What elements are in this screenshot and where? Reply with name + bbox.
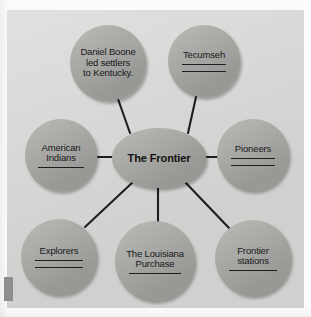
worksheet-page: Daniel Boone led settlers to Kentucky.Te… (0, 0, 311, 317)
answer-blank-line[interactable] (35, 260, 83, 261)
node-shading (217, 119, 289, 191)
answer-blank-line[interactable] (129, 273, 181, 274)
answer-blanks-american-indians[interactable] (38, 167, 84, 168)
node-center[interactable]: The Frontier (112, 128, 206, 188)
node-label-frontier-stations: Frontier stations (233, 246, 273, 267)
node-shading (168, 25, 240, 97)
link-tecumseh (188, 97, 196, 133)
node-american-indians[interactable]: American Indians (25, 119, 97, 191)
node-label-tecumseh: Tecumseh (179, 50, 229, 61)
answer-blanks-explorers[interactable] (35, 260, 83, 268)
node-shading (21, 219, 97, 295)
diagram-stage: Daniel Boone led settlers to Kentucky.Te… (0, 0, 311, 317)
answer-blanks-frontier-stations[interactable] (229, 270, 277, 271)
answer-blank-line[interactable] (182, 71, 226, 72)
answer-blank-line[interactable] (182, 64, 226, 65)
answer-blanks-tecumseh[interactable] (182, 64, 226, 72)
answer-blank-line[interactable] (231, 158, 275, 159)
node-frontier-stations[interactable]: Frontier stations (215, 220, 291, 296)
node-label-pioneers: Pioneers (231, 144, 275, 155)
node-label-daniel-boone: Daniel Boone led settlers to Kentucky. (76, 47, 139, 79)
link-frontier-stations (185, 182, 229, 228)
link-daniel-boone (118, 99, 130, 133)
answer-blank-line[interactable] (229, 270, 277, 271)
answer-blanks-louisiana-purchase[interactable] (129, 273, 181, 274)
answer-blank-line[interactable] (231, 165, 275, 166)
node-label-explorers: Explorers (36, 246, 83, 257)
node-explorers[interactable]: Explorers (21, 219, 97, 295)
node-tecumseh[interactable]: Tecumseh (168, 25, 240, 97)
node-label-center: The Frontier (128, 152, 191, 164)
node-label-louisiana-purchase: The Louisiana Purchase (122, 249, 188, 270)
node-pioneers[interactable]: Pioneers (217, 119, 289, 191)
node-louisiana-purchase[interactable]: The Louisiana Purchase (115, 221, 195, 301)
node-label-american-indians: American Indians (38, 143, 85, 164)
link-explorers (85, 182, 133, 227)
node-daniel-boone[interactable]: Daniel Boone led settlers to Kentucky. (70, 25, 146, 101)
answer-blank-line[interactable] (35, 267, 83, 268)
answer-blank-line[interactable] (38, 167, 84, 168)
answer-blanks-pioneers[interactable] (231, 158, 275, 166)
